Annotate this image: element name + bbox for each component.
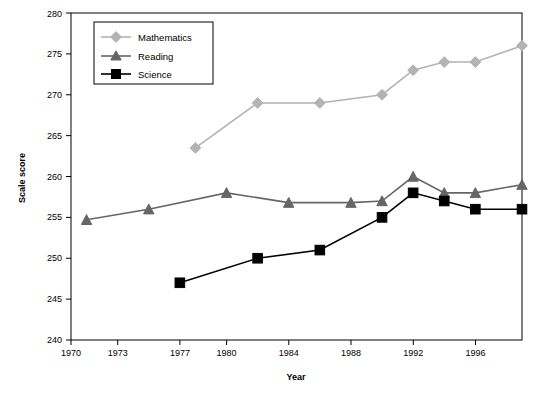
line-chart: 240 245 250 255 260 265 270 275 280 1970… — [0, 0, 538, 393]
x-axis: 1970 1973 1977 1980 1984 1988 1992 1996 — [61, 340, 486, 358]
y-axis: 240 245 250 255 260 265 270 275 280 — [47, 9, 71, 346]
y-tick-label-255: 255 — [47, 212, 62, 222]
data-point-square — [471, 204, 481, 214]
y-tick-label-245: 245 — [47, 294, 62, 304]
y-tick-label-260: 260 — [47, 172, 62, 182]
data-point-square — [439, 196, 449, 206]
square-icon — [111, 69, 121, 79]
data-point-square — [517, 204, 527, 214]
x-tick-label-1970: 1970 — [61, 348, 81, 358]
legend-label-reading: Reading — [138, 51, 173, 62]
legend: Mathematics Reading Science — [94, 22, 213, 84]
y-tick-label-250: 250 — [47, 253, 62, 263]
x-tick-label-1996: 1996 — [465, 348, 485, 358]
x-tick-label-1984: 1984 — [279, 348, 299, 358]
data-point-square — [408, 188, 418, 198]
y-tick-label-240: 240 — [47, 335, 62, 345]
y-tick-label-275: 275 — [47, 49, 62, 59]
x-tick-label-1988: 1988 — [341, 348, 361, 358]
chart-container: 240 245 250 255 260 265 270 275 280 1970… — [0, 0, 538, 393]
y-tick-label-280: 280 — [47, 9, 62, 19]
data-point-square — [253, 253, 263, 263]
x-tick-label-1973: 1973 — [108, 348, 128, 358]
x-tick-label-1977: 1977 — [170, 348, 190, 358]
x-tick-label-1980: 1980 — [217, 348, 237, 358]
data-point-square — [377, 213, 387, 223]
y-axis-title: Scale score — [17, 153, 27, 203]
legend-label-mathematics: Mathematics — [138, 32, 192, 43]
y-tick-label-270: 270 — [47, 90, 62, 100]
data-point-square — [315, 245, 325, 255]
x-axis-title: Year — [286, 372, 306, 382]
legend-label-science: Science — [138, 69, 172, 80]
data-point-square — [175, 278, 185, 288]
y-tick-label-265: 265 — [47, 131, 62, 141]
x-tick-label-1992: 1992 — [403, 348, 423, 358]
